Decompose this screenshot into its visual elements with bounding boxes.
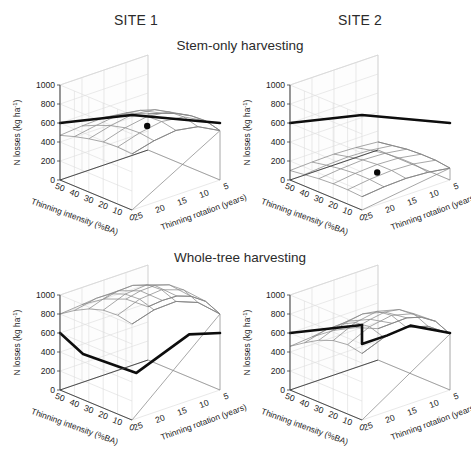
plot-panel-site2-stem-only: 0200400600800100050403020100252015105Thi…	[238, 62, 470, 242]
svg-text:1000: 1000	[266, 80, 285, 90]
svg-text:10: 10	[428, 397, 441, 410]
svg-text:40: 40	[68, 187, 81, 200]
svg-text:10: 10	[428, 187, 441, 200]
svg-text:N losses (kg ha-1): N losses (kg ha-1)	[12, 309, 22, 375]
svg-text:20: 20	[384, 412, 397, 425]
surface-plot-svg: 0200400600800100050403020100252015105Thi…	[8, 62, 240, 242]
svg-text:15: 15	[176, 405, 189, 418]
svg-text:20: 20	[97, 409, 110, 422]
svg-text:800: 800	[41, 99, 56, 109]
svg-text:0: 0	[50, 385, 55, 395]
svg-text:10: 10	[111, 205, 124, 218]
svg-text:15: 15	[176, 195, 189, 208]
column-title-site2: SITE 2	[300, 12, 420, 28]
svg-text:50: 50	[284, 391, 297, 404]
plot-panel-site1-whole-tree: 0200400600800100050403020100252015105Thi…	[8, 272, 240, 452]
svg-text:5: 5	[222, 181, 230, 192]
svg-text:800: 800	[41, 309, 56, 319]
column-title-site1: SITE 1	[76, 12, 196, 28]
svg-text:800: 800	[271, 99, 286, 109]
svg-text:1000: 1000	[36, 80, 55, 90]
svg-text:0: 0	[50, 175, 55, 185]
svg-text:200: 200	[271, 366, 286, 376]
svg-text:20: 20	[97, 199, 110, 212]
svg-text:20: 20	[327, 199, 340, 212]
svg-text:N losses (kg ha-1): N losses (kg ha-1)	[12, 99, 22, 165]
svg-text:40: 40	[68, 397, 81, 410]
svg-text:30: 30	[83, 193, 96, 206]
row-title-stem-only: Stem-only harvesting	[130, 38, 350, 53]
svg-text:400: 400	[271, 137, 286, 147]
svg-text:50: 50	[54, 391, 67, 404]
svg-text:5: 5	[452, 391, 460, 402]
svg-text:200: 200	[271, 156, 286, 166]
svg-text:N losses (kg ha-1): N losses (kg ha-1)	[242, 99, 252, 165]
svg-text:400: 400	[41, 347, 56, 357]
svg-text:10: 10	[341, 205, 354, 218]
svg-text:20: 20	[154, 202, 167, 215]
svg-text:600: 600	[271, 118, 286, 128]
svg-text:20: 20	[154, 412, 167, 425]
svg-text:800: 800	[271, 309, 286, 319]
svg-text:25: 25	[362, 420, 375, 433]
svg-text:600: 600	[271, 328, 286, 338]
figure-canvas: SITE 1 SITE 2 Stem-only harvesting Whole…	[0, 0, 471, 472]
svg-text:1000: 1000	[36, 290, 55, 300]
svg-text:50: 50	[54, 181, 67, 194]
svg-text:5: 5	[452, 181, 460, 192]
svg-text:40: 40	[298, 397, 311, 410]
svg-text:600: 600	[41, 118, 56, 128]
svg-text:N losses (kg ha-1): N losses (kg ha-1)	[242, 309, 252, 375]
svg-text:30: 30	[313, 193, 326, 206]
svg-text:20: 20	[327, 409, 340, 422]
data-point-marker	[374, 169, 380, 175]
svg-text:15: 15	[406, 405, 419, 418]
svg-text:200: 200	[41, 156, 56, 166]
surface-plot-svg: 0200400600800100050403020100252015105Thi…	[238, 62, 470, 242]
plot-panel-site1-stem-only: 0200400600800100050403020100252015105Thi…	[8, 62, 240, 242]
surface-plot-svg: 0200400600800100050403020100252015105Thi…	[238, 272, 470, 452]
svg-text:25: 25	[132, 210, 145, 223]
svg-text:40: 40	[298, 187, 311, 200]
svg-text:10: 10	[341, 415, 354, 428]
svg-text:30: 30	[313, 403, 326, 416]
plot-panel-site2-whole-tree: 0200400600800100050403020100252015105Thi…	[238, 272, 470, 452]
svg-text:400: 400	[271, 347, 286, 357]
svg-text:50: 50	[284, 181, 297, 194]
svg-text:400: 400	[41, 137, 56, 147]
svg-text:20: 20	[384, 202, 397, 215]
svg-text:1000: 1000	[266, 290, 285, 300]
svg-text:15: 15	[406, 195, 419, 208]
svg-text:10: 10	[111, 415, 124, 428]
svg-text:30: 30	[83, 403, 96, 416]
svg-text:200: 200	[41, 366, 56, 376]
svg-text:600: 600	[41, 328, 56, 338]
svg-text:25: 25	[132, 420, 145, 433]
svg-text:0: 0	[280, 385, 285, 395]
svg-text:0: 0	[280, 175, 285, 185]
svg-text:25: 25	[362, 210, 375, 223]
row-title-whole-tree: Whole-tree harvesting	[130, 250, 350, 265]
surface-plot-svg: 0200400600800100050403020100252015105Thi…	[8, 272, 240, 452]
svg-text:10: 10	[198, 397, 211, 410]
data-point-marker	[144, 123, 150, 129]
svg-text:10: 10	[198, 187, 211, 200]
svg-text:5: 5	[222, 391, 230, 402]
